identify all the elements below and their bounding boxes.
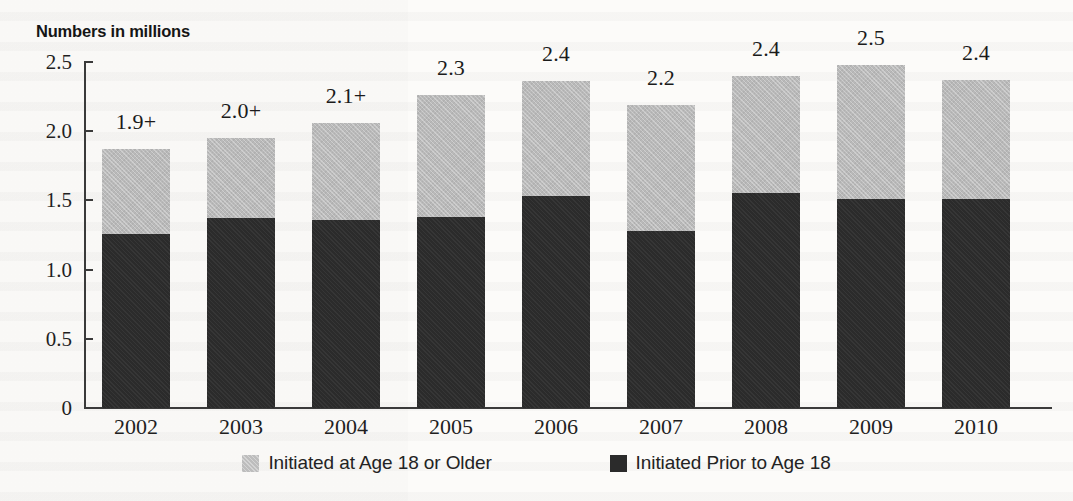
y-axis-tick [84,407,93,409]
bar-value-label: 2.4 [500,41,612,67]
x-axis-tick-label: 2005 [395,414,507,440]
x-axis-tick-label: 2004 [290,414,402,440]
legend-label-age-18-or-older: Initiated at Age 18 or Older [268,452,491,474]
bar-value-label: 2.2 [605,65,717,91]
bar-segment-age-18-or-older[interactable] [102,149,170,233]
bar-group[interactable] [942,80,1010,408]
bar-segment-prior-to-18[interactable] [732,193,800,408]
x-axis-tick-label: 2009 [815,414,927,440]
x-axis-tick-label: 2002 [80,414,192,440]
bar-segment-age-18-or-older[interactable] [732,76,800,194]
bar-segment-prior-to-18[interactable] [312,220,380,408]
chart-legend: Initiated at Age 18 or Older Initiated P… [0,452,1073,474]
bar-group[interactable] [417,95,485,408]
y-axis-tick [84,338,93,340]
bar-group[interactable] [522,81,590,408]
y-axis-tick-label: 2.5 [10,50,72,75]
bar-segment-age-18-or-older[interactable] [837,65,905,199]
bar-group[interactable] [837,65,905,408]
plot-area: 00.51.01.52.02.5 1.9+20022.0+20032.1+200… [0,0,1073,501]
legend-item-prior-to-18: Initiated Prior to Age 18 [610,452,831,474]
bar-value-label: 2.4 [710,36,822,62]
bar-value-label: 2.3 [395,55,507,81]
bar-value-label: 2.1+ [290,83,402,109]
x-axis-tick-label: 2006 [500,414,612,440]
y-axis-tick-label: 1.5 [10,188,72,213]
bar-segment-age-18-or-older[interactable] [312,123,380,220]
legend-swatch-light-icon [242,455,259,472]
bar-segment-prior-to-18[interactable] [102,234,170,408]
y-axis-tick-label: 0 [10,396,72,421]
bar-segment-age-18-or-older[interactable] [522,81,590,196]
bar-group[interactable] [207,138,275,408]
bar-segment-prior-to-18[interactable] [207,218,275,408]
y-axis-tick [84,61,93,63]
x-axis-tick-label: 2003 [185,414,297,440]
bar-segment-age-18-or-older[interactable] [942,80,1010,199]
y-axis-tick-label: 0.5 [10,326,72,351]
legend-item-age-18-or-older: Initiated at Age 18 or Older [242,452,491,474]
bar-segment-prior-to-18[interactable] [942,199,1010,408]
bar-group[interactable] [627,105,695,408]
legend-label-prior-to-18: Initiated Prior to Age 18 [636,452,831,474]
bar-group[interactable] [732,76,800,408]
y-axis-tick [84,199,93,201]
bar-value-label: 2.0+ [185,98,297,124]
bar-segment-age-18-or-older[interactable] [207,138,275,218]
bar-segment-prior-to-18[interactable] [417,217,485,408]
y-axis-tick-label: 2.0 [10,119,72,144]
y-axis-tick-label: 1.0 [10,257,72,282]
bar-segment-prior-to-18[interactable] [627,231,695,408]
bar-segment-prior-to-18[interactable] [837,199,905,408]
stacked-bar-chart: Numbers in millions 00.51.01.52.02.5 1.9… [0,0,1073,501]
legend-swatch-dark-icon [610,455,627,472]
x-axis-tick-label: 2010 [920,414,1032,440]
bar-group[interactable] [102,149,170,408]
bar-value-label: 2.5 [815,25,927,51]
bar-value-label: 2.4 [920,40,1032,66]
bar-segment-age-18-or-older[interactable] [417,95,485,217]
y-axis-tick [84,269,93,271]
bar-value-label: 1.9+ [80,109,192,135]
x-axis-tick-label: 2008 [710,414,822,440]
x-axis-tick-label: 2007 [605,414,717,440]
bar-group[interactable] [312,123,380,408]
bar-segment-prior-to-18[interactable] [522,196,590,408]
bar-segment-age-18-or-older[interactable] [627,105,695,231]
